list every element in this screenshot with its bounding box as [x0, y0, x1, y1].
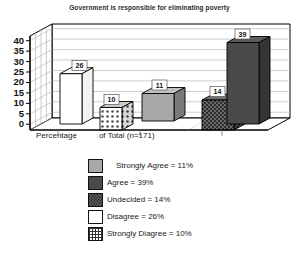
- bar-label-agree: 39: [235, 29, 250, 39]
- y-tick-label-25: 25: [13, 66, 24, 77]
- bar-label-strongly-disagree: 10: [104, 95, 119, 105]
- y-tick-label-10: 10: [13, 97, 24, 108]
- svg-text:10: 10: [108, 96, 116, 103]
- bar-disagree[interactable]: [60, 68, 93, 124]
- legend-item-strongly-agree[interactable]: Strongly Agree = 11%: [88, 157, 288, 174]
- svg-text:14: 14: [214, 88, 222, 95]
- y-tick-label-5: 5: [19, 108, 25, 119]
- y-axis: 40 35 30 25 20 15 10 5 0: [13, 35, 30, 130]
- y-tick-label-35: 35: [13, 45, 24, 56]
- legend-label-strongly-agree: Strongly Agree = 11%: [107, 161, 193, 170]
- legend-label-strongly-disagree: Strongly Diagree = 10%: [107, 229, 192, 238]
- svg-text:11: 11: [156, 82, 164, 89]
- legend-item-agree[interactable]: Agree = 39%: [88, 174, 288, 191]
- legend-label-agree: Agree = 39%: [107, 178, 153, 187]
- chart-title: Government is responsible for eliminatin…: [0, 4, 299, 11]
- bar-label-disagree: 26: [72, 61, 87, 71]
- y-tick-label-30: 30: [13, 56, 24, 67]
- chart-left-wall: [30, 24, 52, 130]
- legend-item-strongly-disagree[interactable]: Strongly Diagree = 10%: [88, 225, 288, 242]
- legend-label-disagree: Disagree = 26%: [107, 212, 164, 221]
- legend-swatch-undecided: [88, 193, 103, 207]
- svg-text:39: 39: [239, 31, 247, 38]
- y-tick-label-15: 15: [13, 87, 24, 98]
- legend-swatch-strongly-disagree: [88, 227, 103, 241]
- y-tick-label-0: 0: [19, 118, 24, 129]
- chart-legend: Strongly Agree = 11% Agree = 39% Undecid…: [88, 157, 288, 242]
- svg-text:26: 26: [76, 62, 84, 69]
- legend-swatch-strongly-agree: [88, 159, 103, 173]
- x-axis-label-spacer: [77, 131, 99, 140]
- bar-strongly-disagree[interactable]: [100, 102, 133, 131]
- bar-strongly-agree[interactable]: [142, 88, 185, 122]
- y-tick-label-20: 20: [13, 76, 24, 87]
- y-tick-label-40: 40: [13, 35, 24, 46]
- bar-label-undecided: 14: [210, 87, 225, 97]
- bar-label-strongly-agree: 11: [152, 80, 167, 90]
- legend-swatch-disagree: [88, 210, 103, 224]
- chart-plot-area: 40 35 30 25 20 15 10 5 0 26: [0, 14, 299, 138]
- x-axis-label-part2: of Total (n=171): [99, 131, 155, 140]
- x-axis-label-part1: Percentage: [36, 131, 77, 140]
- bar-agree[interactable]: [227, 37, 270, 125]
- legend-item-undecided[interactable]: Undecided = 14%: [88, 191, 288, 208]
- x-axis-label: Percentage of Total (n=171): [0, 131, 299, 140]
- legend-item-disagree[interactable]: Disagree = 26%: [88, 208, 288, 225]
- legend-swatch-agree: [88, 176, 103, 190]
- legend-label-undecided: Undecided = 14%: [107, 195, 170, 204]
